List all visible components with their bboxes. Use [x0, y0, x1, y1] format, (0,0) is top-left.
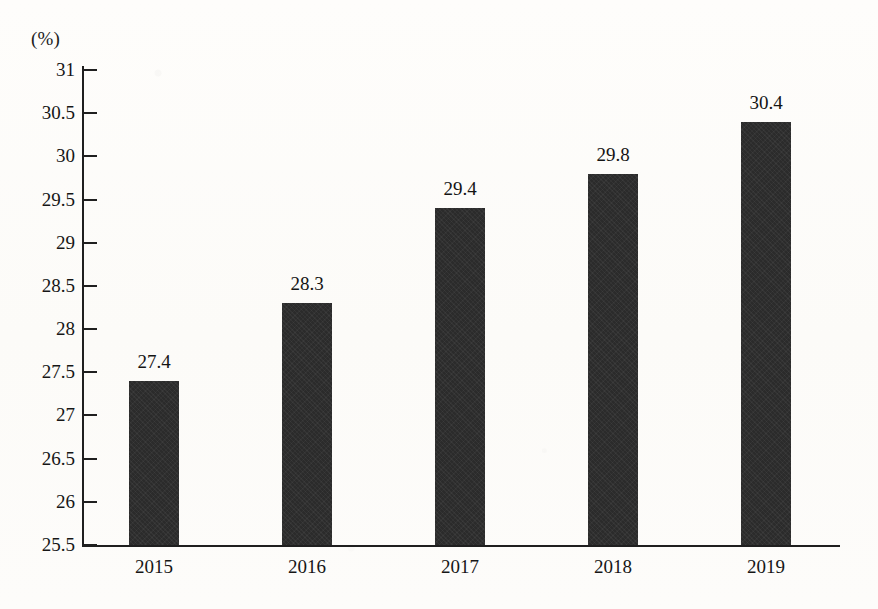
y-axis-tick [84, 242, 97, 244]
x-axis-tick-label: 2016 [252, 556, 362, 578]
bar-value-label: 29.8 [568, 144, 658, 166]
y-axis-tick-label: 30.5 [15, 103, 75, 122]
bar-value-label: 29.4 [415, 178, 505, 200]
y-axis-tick [84, 414, 97, 416]
y-axis-tick-label: 26 [15, 492, 75, 511]
bar-value-label: 27.4 [109, 351, 199, 373]
x-axis-tick-label: 2017 [405, 556, 515, 578]
y-axis-tick [84, 328, 97, 330]
x-axis-tick-label: 2019 [711, 556, 821, 578]
y-axis-tick [84, 501, 97, 503]
y-axis-tick-label: 29.5 [15, 190, 75, 209]
y-axis-tick-label: 27.5 [15, 362, 75, 381]
y-axis-tick [84, 285, 97, 287]
y-axis-tick-label: 27 [15, 405, 75, 424]
bar [588, 174, 638, 545]
y-axis-tick-label: 28.5 [15, 276, 75, 295]
bar-value-label: 28.3 [262, 273, 352, 295]
y-axis-tick-label: 26.5 [15, 449, 75, 468]
y-axis-line [82, 66, 84, 547]
bar [741, 122, 791, 545]
y-axis-tick [84, 112, 97, 114]
x-axis-tick-label: 2018 [558, 556, 668, 578]
y-axis-tick-label: 29 [15, 233, 75, 252]
bar-chart: (%) 3130.53029.52928.52827.52726.52625.5… [0, 0, 878, 609]
y-axis-unit-label: (%) [31, 28, 60, 50]
y-axis-tick-label: 31 [15, 60, 75, 79]
y-axis-tick [84, 155, 97, 157]
y-axis-tick [84, 544, 97, 546]
x-axis-tick-label: 2015 [99, 556, 209, 578]
y-axis-tick-label: 28 [15, 319, 75, 338]
y-axis-tick [84, 199, 97, 201]
y-axis-tick [84, 69, 97, 71]
y-axis-tick-label: 30 [15, 146, 75, 165]
y-axis-tick [84, 371, 97, 373]
bar [282, 303, 332, 545]
bar [129, 381, 179, 545]
bar-value-label: 30.4 [721, 92, 811, 114]
y-axis-tick-label: 25.5 [15, 535, 75, 554]
bar [435, 208, 485, 545]
x-axis-line [82, 545, 840, 547]
y-axis-tick [84, 458, 97, 460]
